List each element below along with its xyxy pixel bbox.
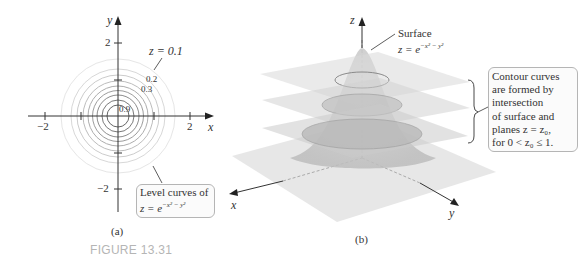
z-axis-label: z [350, 13, 355, 28]
surface-formula-base: z = e [398, 43, 420, 55]
surface-formula-exponent: −x² − y² [420, 42, 443, 50]
panel-b-caption: (b) [355, 233, 368, 245]
level-label-outer: z = 0.1 [149, 44, 183, 59]
level-label-0.3: 0.3 [141, 84, 152, 94]
formula-base: z = e [140, 202, 162, 214]
x-axis-label: x [208, 120, 213, 135]
level-callout-line1: Level curves of [140, 186, 211, 199]
contour-z1 [302, 119, 422, 149]
contour-callout-line: of surface and [492, 110, 574, 123]
contour-callout-line: for 0 < z₀ ≤ 1. [492, 136, 574, 149]
panel-a-caption: (a) [111, 225, 123, 237]
tick-x-neg: −2 [37, 120, 49, 132]
x-axis-3d [234, 181, 283, 193]
level-curves-callout: Level curves of z = e−x² − y² [136, 184, 215, 218]
level-callout-leader [153, 166, 162, 183]
level-label-0.9: 0.9 [119, 104, 130, 114]
x-arrow-icon [205, 113, 214, 120]
formula-exponent: −x² − y² [162, 201, 185, 209]
tick-y-neg: −2 [97, 182, 109, 194]
surface-label: Surface z = e−x² − y² [398, 27, 443, 56]
brace-leader [478, 107, 488, 112]
contour-callout-line: are formed by [492, 83, 574, 96]
level-outer-leader [154, 58, 162, 70]
level-callout-line2: z = e−x² − y² [140, 199, 211, 215]
contour-curves-callout: Contour curves are formed by intersectio… [488, 67, 578, 152]
surface-label-line1: Surface [398, 27, 443, 40]
surface-label-line2: z = e−x² − y² [398, 40, 443, 56]
contour-callout-line: planes z = z₀, [492, 123, 574, 136]
tick-x-pos: 2 [187, 120, 193, 132]
z-arrow-icon [359, 17, 366, 26]
contour-callout-line: intersection [492, 96, 574, 109]
figure-label: FIGURE 13.31 [90, 243, 172, 257]
y-arrow-icon [115, 16, 122, 25]
brace-icon [468, 80, 478, 143]
contour-callout-line: Contour curves [492, 70, 574, 83]
x3d-arrow-icon [229, 189, 238, 196]
tick-y-pos: 2 [105, 36, 111, 48]
level-label-0.2: 0.2 [146, 74, 157, 84]
y3d-arrow-icon [450, 198, 459, 206]
surface-leader [371, 34, 395, 50]
y-axis-label: y [107, 13, 112, 28]
y3d-axis-label: y [449, 206, 454, 221]
x3d-axis-label: x [231, 198, 236, 213]
